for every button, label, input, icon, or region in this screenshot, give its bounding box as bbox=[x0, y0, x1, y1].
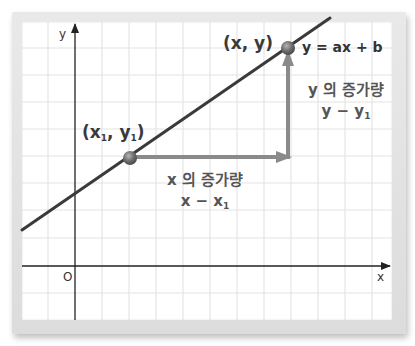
x-axis-label: x bbox=[377, 270, 384, 284]
point-x-y bbox=[281, 41, 295, 55]
y-axis-label: y bbox=[59, 27, 66, 41]
x-increase-label: x 의 증가량 x − x1 bbox=[150, 170, 260, 217]
point-x1-y1-label: (x1, y1) bbox=[82, 122, 145, 143]
point-x1-y1 bbox=[123, 151, 137, 165]
x-increase-expression: x − x1 bbox=[150, 191, 260, 217]
line-equation-label: y = ax + b bbox=[302, 39, 383, 55]
y-increase-label: y 의 증가량 y − y1 bbox=[298, 80, 394, 127]
point-x-y-label: (x, y) bbox=[223, 33, 273, 53]
y-increase-title: y 의 증가량 bbox=[298, 80, 394, 101]
x-increase-title: x 의 증가량 bbox=[150, 170, 260, 191]
y-increase-expression: y − y1 bbox=[298, 101, 394, 127]
origin-label: O bbox=[63, 270, 72, 284]
